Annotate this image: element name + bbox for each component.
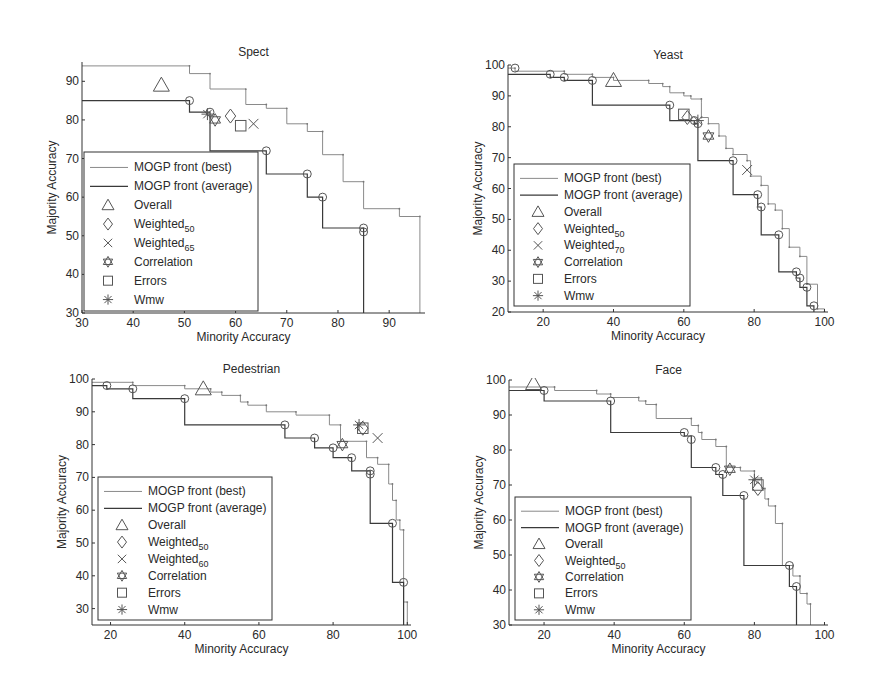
front-point [753,470,755,472]
y-tick-label: 40 [66,267,80,281]
front-point [613,76,615,78]
y-tick-label: 60 [492,182,506,196]
weighted50-marker [225,109,236,123]
x-axis-label: Minority Accuracy [611,329,705,343]
legend-label: Correlation [564,255,623,269]
legend-label: Correlation [565,570,624,584]
front-point [406,601,408,603]
front-point [799,575,801,577]
front-point [725,147,727,149]
y-tick-label: 80 [66,113,80,127]
front-point [377,457,379,459]
front-point [782,523,784,525]
front-point [514,67,516,69]
front-point [184,385,186,387]
legend-label: Overall [134,198,172,212]
correlation-marker [703,133,714,142]
front-point [591,73,593,75]
front-point [781,228,783,230]
front-point [403,529,405,531]
y-tick-label: 70 [76,470,90,484]
plot-title: Yeast [653,48,683,62]
x-tick-label: 60 [677,315,691,329]
front-point [739,467,741,469]
front-point [366,440,368,442]
front-point [810,603,812,605]
y-tick-label: 50 [492,212,506,226]
front-point [209,73,211,75]
front-point [715,439,717,441]
front-point [645,400,647,402]
front-point [363,181,365,183]
front-point [306,123,308,125]
front-point [701,98,703,100]
y-axis-label: Majority Accuracy [45,140,59,234]
figure-canvas: Spect3040506070809030405060708090Minorit… [0,0,878,690]
front-point [610,393,612,395]
legend-label: Overall [565,537,603,551]
front-point [563,70,565,72]
front-point [638,397,640,399]
y-tick-label: 70 [492,151,506,165]
x-tick-label: 60 [252,628,266,642]
front-point [399,208,401,210]
front-point [239,395,241,397]
subplot-yeast: Yeast204060801002030405060708090100Minor… [471,48,835,343]
y-tick-label: 70 [493,478,507,492]
front-point [392,483,394,485]
legend-label: Wmw [148,603,178,617]
legend-label: MOGP front (average) [148,501,267,515]
legend-label: MOGP front (average) [134,179,253,193]
x-tick-label: 80 [326,628,340,642]
front-point [697,425,699,427]
x-tick-label: 40 [127,316,141,330]
front-point [221,391,223,393]
legend-label: Correlation [148,569,207,583]
y-axis-label: Majority Accuracy [55,455,69,549]
legend-label: MOGP front (best) [564,171,662,185]
front-point [760,477,762,479]
legend: MOGP front (best)MOGP front (average)Ove… [514,164,690,306]
y-tick-label: 90 [492,89,506,103]
front-point [669,86,671,88]
x-tick-label: 40 [607,628,621,642]
legend-label: Errors [564,272,597,286]
y-tick-label: 50 [76,536,90,550]
weighted60-marker [373,433,383,443]
front-point [683,92,685,94]
legend-label: Overall [564,205,602,219]
legend-label: Wmw [564,289,594,303]
front-point [395,499,397,501]
y-tick-label: 60 [66,190,80,204]
y-tick-label: 40 [492,243,506,257]
y-tick-label: 80 [76,438,90,452]
y-tick-label: 90 [66,74,80,88]
legend-box [84,152,258,311]
x-tick-label: 60 [229,316,243,330]
subplot-spect: Spect3040506070809030405060708090Minorit… [45,45,425,344]
front-point [725,446,727,448]
front-point [342,154,344,156]
y-tick-label: 30 [492,274,506,288]
y-tick-label: 90 [493,408,507,422]
front-point [286,107,288,109]
legend-label: MOGP front (average) [564,188,683,202]
x-tick-label: 20 [104,628,118,642]
y-tick-label: 60 [493,513,507,527]
legend-label: Errors [148,586,181,600]
y-axis-label: Majority Accuracy [472,455,486,549]
front-point [764,488,766,490]
front-point [419,216,421,218]
front-point [648,80,650,82]
front-point [399,519,401,521]
legend-item: Errors [118,586,181,600]
legend-label: Wmw [134,293,164,307]
front-point [245,88,247,90]
figure: Spect3040506070809030405060708090Minorit… [0,0,878,690]
y-tick-label: 20 [492,305,506,319]
front-point [189,65,191,67]
x-tick-label: 100 [814,628,834,642]
front-point [760,185,762,187]
front-point [788,246,790,248]
y-tick-label: 100 [485,58,505,72]
